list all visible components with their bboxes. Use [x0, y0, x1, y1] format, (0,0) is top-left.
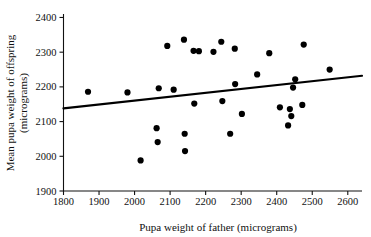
- data-point: [210, 49, 216, 55]
- data-point: [292, 76, 298, 82]
- data-point: [299, 102, 305, 108]
- x-tick-label: 2000: [124, 196, 145, 207]
- data-point: [232, 46, 238, 52]
- x-tick-label: 2300: [231, 196, 252, 207]
- x-tick-label: 2500: [302, 196, 323, 207]
- data-point: [285, 122, 291, 128]
- y-tick-label: 2000: [36, 151, 57, 162]
- y-tick-label: 2200: [36, 81, 57, 92]
- data-point: [287, 106, 293, 112]
- y-tick-label: 1900: [36, 186, 57, 197]
- data-point: [266, 50, 272, 56]
- x-tick-label: 2100: [160, 196, 181, 207]
- data-point: [218, 39, 224, 45]
- x-tick-label: 2600: [337, 196, 358, 207]
- data-point: [239, 111, 245, 117]
- y-tick-label: 2300: [36, 47, 57, 58]
- y-axis-title-line2: (micrograms): [17, 73, 30, 133]
- y-axis-title-line1: Mean pupa weight of offspring: [4, 34, 16, 171]
- x-tick-label: 1800: [53, 196, 74, 207]
- data-point: [301, 41, 307, 47]
- data-point: [219, 98, 225, 104]
- data-point: [254, 71, 260, 77]
- data-point: [327, 66, 333, 72]
- data-point: [85, 89, 91, 95]
- data-point: [181, 37, 187, 43]
- data-point: [155, 139, 161, 145]
- y-axis-tick-labels: 190020002100220023002400: [36, 12, 57, 197]
- data-point: [277, 104, 283, 110]
- y-tick-label: 2100: [36, 116, 57, 127]
- data-point: [232, 81, 238, 87]
- scatter-plot: 180019002000210022002300240025002600 190…: [0, 0, 371, 237]
- data-point: [154, 125, 160, 131]
- data-points-group: [85, 37, 333, 164]
- data-point: [196, 48, 202, 54]
- x-axis-tick-labels: 180019002000210022002300240025002600: [53, 196, 358, 207]
- data-point: [182, 148, 188, 154]
- data-point: [190, 48, 196, 54]
- x-tick-label: 2200: [195, 196, 216, 207]
- data-point: [124, 89, 130, 95]
- data-point: [227, 131, 233, 137]
- data-point: [191, 100, 197, 106]
- data-point: [164, 43, 170, 49]
- data-point: [171, 87, 177, 93]
- data-point: [156, 85, 162, 91]
- data-point: [288, 113, 294, 119]
- x-axis-title: Pupa weight of father (micrograms): [139, 221, 297, 234]
- x-tick-label: 1900: [89, 196, 110, 207]
- regression-line: [64, 76, 363, 109]
- data-point: [138, 157, 144, 163]
- figure-container: 180019002000210022002300240025002600 190…: [0, 0, 371, 237]
- y-tick-label: 2400: [36, 12, 57, 23]
- data-point: [290, 84, 296, 90]
- x-tick-label: 2400: [266, 196, 287, 207]
- data-point: [182, 131, 188, 137]
